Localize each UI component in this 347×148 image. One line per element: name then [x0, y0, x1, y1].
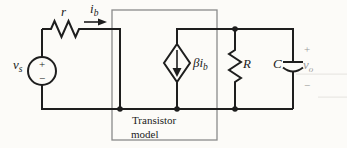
scan-artifact-line	[318, 97, 347, 98]
capacitor-label: C	[273, 56, 282, 71]
dependent-current-source	[164, 44, 190, 82]
base-current-label: ib	[90, 1, 99, 18]
circuit-figure: + − vs r ib βib Transistor model R C +	[0, 0, 347, 148]
box-label-line2: model	[131, 128, 159, 140]
output-plus-sign: +	[304, 43, 310, 55]
box-label-line1: Transistor	[132, 114, 177, 126]
capacitor-curved-plate	[283, 68, 303, 72]
series-resistor-label: r	[61, 4, 67, 19]
junction-dot	[117, 106, 123, 112]
base-current-arrow	[84, 19, 107, 26]
output-minus-sign: −	[304, 79, 310, 91]
junction-dot	[232, 26, 238, 32]
voltage-source: + −	[28, 57, 56, 85]
source-minus-sign: −	[39, 72, 45, 84]
source-plus-sign: +	[39, 58, 45, 70]
junction-dot	[232, 106, 238, 112]
wires	[42, 21, 293, 109]
scan-artifact-line	[296, 74, 347, 75]
wire-resistor-R-branch	[229, 29, 241, 109]
dependent-source-label: βib	[192, 55, 208, 72]
capacitor-C	[283, 62, 303, 72]
output-voltage-label: vo	[303, 57, 314, 74]
circuit-canvas: + − vs r ib βib Transistor model R C +	[0, 0, 347, 148]
source-voltage-label: vs	[13, 57, 23, 74]
current-arrowhead	[98, 19, 107, 26]
junction-dot	[174, 106, 180, 112]
load-resistor-label: R	[242, 56, 251, 71]
wire-bottom-rail	[42, 85, 293, 109]
